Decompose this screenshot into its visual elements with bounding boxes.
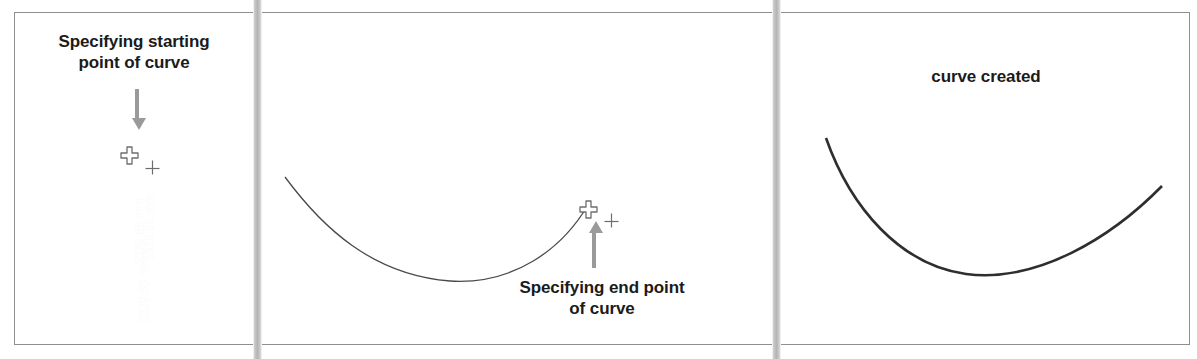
crosshair-plus-cursor-icon bbox=[120, 146, 139, 165]
crosshair-plus-cursor-icon bbox=[579, 200, 598, 219]
caption-specifying-end-point: Specifying end point of curve bbox=[474, 277, 730, 319]
small-cross-cursor-icon bbox=[604, 213, 619, 228]
curve-created bbox=[781, 13, 1190, 344]
panel-divider-1 bbox=[253, 0, 262, 359]
panel-start-point: Specifying starting point of curve 3329.… bbox=[15, 13, 253, 344]
ghost-dimension-c: 3329.65 mm bbox=[137, 256, 151, 323]
small-cross-cursor-icon bbox=[145, 160, 160, 175]
ghost-dimension-b: 3329.65 mm bbox=[143, 194, 157, 261]
panel-end-point: 3329.65 mm 3329.65 mm Specifying end poi… bbox=[262, 13, 772, 344]
caption-specifying-starting-point: Specifying starting point of curve bbox=[21, 31, 247, 73]
panel-curve-created: curve created bbox=[781, 13, 1190, 344]
caption-curve-created: curve created bbox=[841, 66, 1131, 87]
panel-divider-2 bbox=[772, 0, 781, 359]
figure-canvas: Specifying starting point of curve 3329.… bbox=[0, 0, 1197, 359]
